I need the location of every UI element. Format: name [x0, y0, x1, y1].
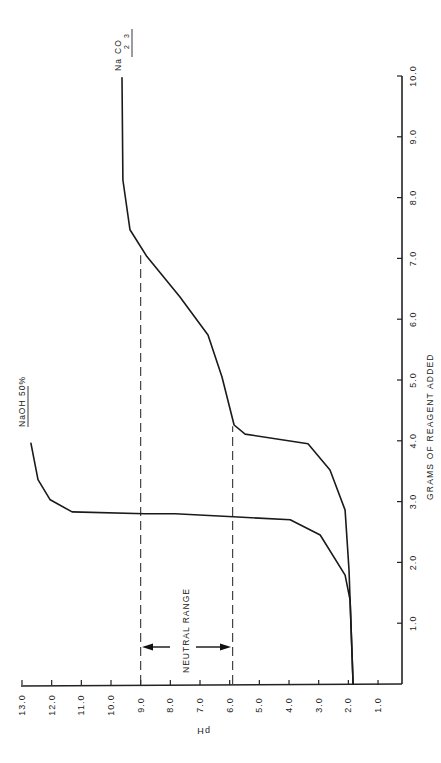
curve-na2co3 — [122, 78, 353, 684]
grams-tick-label: 4.0 — [408, 433, 418, 449]
arrow-left-icon — [142, 644, 153, 651]
y-axis-title: pH — [196, 726, 210, 736]
naoh-label-text: NaOH 50% — [17, 376, 27, 427]
ph-tick-label: 10.0 — [106, 694, 116, 716]
ph-axis — [21, 684, 402, 686]
na2co3-sub2: 2 — [123, 44, 130, 49]
ph-tick-label: 1.0 — [373, 697, 383, 713]
ph-tick-label: 4.0 — [284, 697, 294, 713]
ph-tick-label: 12.0 — [47, 694, 57, 716]
na2co3-co: CO — [113, 39, 123, 54]
ph-tick-label: 9.0 — [136, 697, 146, 713]
na2co3-label: Na CO 2 3 — [113, 29, 132, 71]
naoh-label: NaOH 50% — [17, 376, 28, 427]
grams-tick-label: 5.0 — [408, 372, 418, 388]
curve-naoh-50- — [31, 443, 353, 684]
grams-tick-label: 8.0 — [408, 190, 418, 206]
axes: 1.02.03.04.05.06.07.08.09.010.011.012.01… — [17, 65, 418, 716]
ph-tick-label: 5.0 — [254, 697, 264, 713]
neutral-range-arrow: NEUTRAL RANGE — [142, 588, 231, 673]
ph-tick-label: 11.0 — [76, 695, 86, 716]
grams-tick-label: 1.0 — [408, 615, 418, 631]
na2co3-na: Na — [113, 58, 123, 71]
grams-tick-label: 9.0 — [408, 129, 418, 145]
grams-tick-label: 3.0 — [408, 494, 418, 510]
arrow-right-icon — [220, 644, 231, 651]
titration-curves — [31, 78, 353, 684]
ph-tick-label: 8.0 — [165, 697, 175, 713]
ph-tick-label: 6.0 — [225, 697, 235, 713]
grams-tick-label: 2.0 — [408, 555, 418, 571]
na2co3-sub3: 3 — [123, 33, 130, 38]
grams-tick-label: 7.0 — [408, 251, 418, 267]
ph-tick-label: 7.0 — [195, 697, 205, 713]
x-axis-title: GRAMS OF REAGENT ADDED — [425, 353, 435, 500]
ph-tick-label: 2.0 — [343, 697, 353, 713]
grams-tick-label: 6.0 — [408, 311, 418, 327]
ph-tick-label: 13.0 — [17, 694, 27, 716]
titration-chart: 1.02.03.04.05.06.07.08.09.010.011.012.01… — [0, 0, 441, 763]
ph-tick-label: 3.0 — [314, 697, 324, 713]
neutral-range-label: NEUTRAL RANGE — [181, 588, 191, 673]
grams-tick-label: 10.0 — [408, 65, 418, 87]
